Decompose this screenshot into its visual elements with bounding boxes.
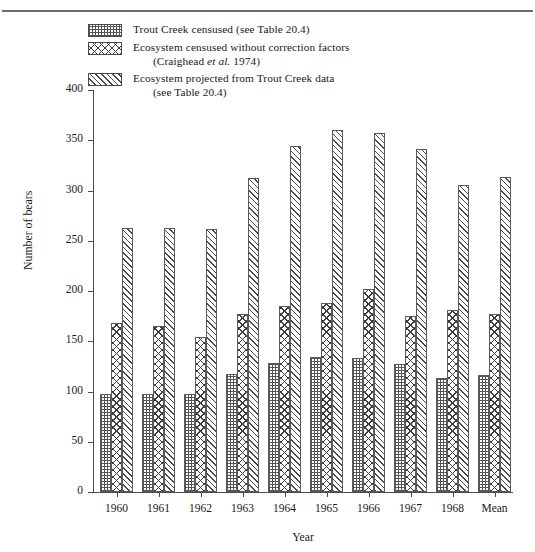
y-axis-tick: 300	[88, 191, 93, 192]
bar	[111, 323, 122, 492]
bar	[237, 314, 248, 492]
y-axis-tick: 100	[88, 392, 93, 393]
page-top-rule	[2, 10, 533, 12]
diagonal-swatch-icon	[88, 73, 122, 86]
bar	[226, 374, 237, 492]
bar	[374, 133, 385, 492]
figure-container: Trout Creek censused (see Table 20.4) Ec…	[0, 0, 535, 552]
y-axis-tick-label: 100	[66, 384, 83, 396]
legend-item-label: Trout Creek censused (see Table 20.4)	[133, 22, 310, 36]
y-axis-title: Number of bears	[21, 191, 36, 270]
bar	[405, 316, 416, 492]
y-axis-tick-label: 400	[66, 82, 83, 94]
bar	[142, 394, 153, 492]
bar	[153, 326, 164, 492]
x-axis-tick-label: Mean	[481, 502, 507, 514]
bar	[489, 314, 500, 492]
y-axis-line	[93, 90, 94, 492]
x-axis-tick-label: 1967	[399, 502, 422, 514]
x-axis-tick-label: 1966	[357, 502, 380, 514]
x-axis-tick	[327, 492, 328, 497]
bar	[500, 177, 511, 492]
x-axis-tick	[453, 492, 454, 497]
bar	[478, 375, 489, 492]
crosshatch-swatch-icon	[88, 42, 122, 55]
y-axis-tick: 0	[88, 492, 93, 493]
x-axis-tick-label: 1963	[231, 502, 254, 514]
y-axis-tick-label: 50	[72, 434, 84, 446]
y-axis-tick: 400	[88, 90, 93, 91]
legend-item-trout-creek-censused: Trout Creek censused (see Table 20.4)	[88, 22, 448, 37]
x-axis-tick	[411, 492, 412, 497]
bar	[164, 228, 175, 492]
bar	[436, 378, 447, 492]
bar	[321, 303, 332, 492]
y-axis-tick-label: 250	[66, 233, 83, 245]
bar	[458, 185, 469, 492]
y-axis-tick-label: 300	[66, 183, 83, 195]
bar	[290, 146, 301, 492]
x-axis-tick-label: 1961	[147, 502, 170, 514]
bar	[363, 289, 374, 492]
legend-item-label: Ecosystem censused without correction fa…	[133, 40, 350, 68]
x-axis-line	[93, 492, 513, 493]
bar	[447, 310, 458, 492]
bar	[122, 228, 133, 492]
x-axis-tick-label: 1964	[273, 502, 296, 514]
y-axis-tick-label: 200	[66, 283, 83, 295]
x-axis-tick-label: 1962	[189, 502, 212, 514]
x-axis-tick-label: 1965	[315, 502, 338, 514]
bar	[184, 394, 195, 492]
x-axis-tick	[159, 492, 160, 497]
dots-swatch-icon	[88, 24, 122, 37]
y-axis-tick: 350	[88, 140, 93, 141]
y-axis-tick: 150	[88, 341, 93, 342]
x-axis-tick-label: 1968	[441, 502, 464, 514]
legend-item-sublabel: (Craighead et al. 1974)	[133, 54, 350, 68]
y-axis-tick: 250	[88, 241, 93, 242]
bar	[416, 149, 427, 492]
x-axis-tick	[201, 492, 202, 497]
bar	[310, 357, 321, 492]
bar	[332, 130, 343, 492]
bar	[248, 178, 259, 492]
y-axis-tick-label: 350	[66, 132, 83, 144]
bar	[100, 394, 111, 492]
x-axis-tick	[117, 492, 118, 497]
y-axis-tick-label: 0	[77, 484, 83, 496]
x-axis-tick	[243, 492, 244, 497]
bar	[394, 364, 405, 492]
x-axis-tick	[285, 492, 286, 497]
bar	[195, 337, 206, 492]
y-axis-tick: 200	[88, 291, 93, 292]
x-axis-tick-label: 1960	[105, 502, 128, 514]
bar	[206, 229, 217, 492]
x-axis-tick	[495, 492, 496, 497]
legend-item-ecosystem-censused: Ecosystem censused without correction fa…	[88, 40, 448, 68]
bar	[352, 358, 363, 492]
bar	[268, 363, 279, 492]
plot-area: 050100150200250300350400 196019611962196…	[93, 90, 513, 492]
y-axis-tick-label: 150	[66, 333, 83, 345]
x-axis-title: Year	[93, 530, 513, 545]
bar	[279, 306, 290, 492]
x-axis-tick	[369, 492, 370, 497]
y-axis-tick: 50	[88, 442, 93, 443]
